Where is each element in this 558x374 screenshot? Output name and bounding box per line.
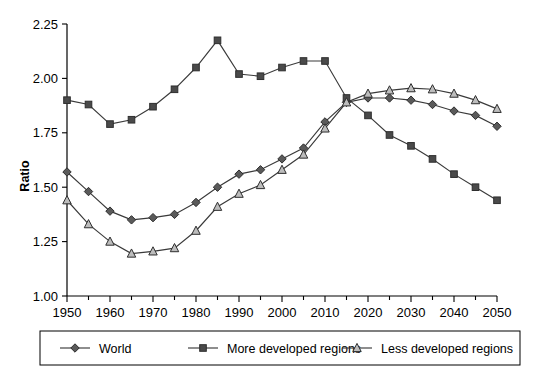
series-more-developed-regions bbox=[64, 37, 501, 204]
y-axis-tick-label: 1.50 bbox=[33, 180, 58, 195]
legend-label: Less developed regions bbox=[381, 342, 513, 356]
data-point-square bbox=[257, 73, 264, 80]
x-axis-tick-label: 2050 bbox=[483, 305, 512, 320]
data-point-square bbox=[472, 184, 479, 191]
data-point-diamond bbox=[407, 96, 415, 104]
data-point-diamond bbox=[385, 94, 393, 102]
data-point-square bbox=[300, 58, 307, 65]
data-point-diamond bbox=[170, 210, 178, 218]
data-point-square bbox=[128, 116, 135, 123]
data-point-square bbox=[279, 64, 286, 71]
series-less-developed-regions bbox=[63, 84, 501, 258]
data-point-triangle bbox=[63, 196, 71, 204]
x-axis-tick-label: 1990 bbox=[225, 305, 254, 320]
data-point-diamond bbox=[278, 155, 286, 163]
data-point-square bbox=[214, 37, 221, 44]
data-point-square bbox=[64, 97, 71, 104]
data-point-triangle bbox=[213, 202, 221, 210]
data-point-triangle bbox=[407, 84, 415, 92]
data-point-square bbox=[322, 58, 329, 65]
chart-legend: WorldMore developed regionsLess develope… bbox=[40, 331, 520, 365]
data-point-triangle bbox=[278, 165, 286, 173]
data-point-diamond bbox=[235, 170, 243, 178]
x-axis-tick-label: 2040 bbox=[440, 305, 469, 320]
data-point-square bbox=[193, 64, 200, 71]
data-point-triangle bbox=[170, 244, 178, 252]
data-point-square bbox=[451, 171, 458, 178]
x-axis-tick-label: 1970 bbox=[139, 305, 168, 320]
data-point-diamond bbox=[127, 216, 135, 224]
y-axis-tick-label: 1.25 bbox=[33, 234, 58, 249]
y-axis-tick-label: 1.75 bbox=[33, 125, 58, 140]
series-layer bbox=[63, 37, 501, 257]
x-axis-tick-label: 1960 bbox=[96, 305, 125, 320]
data-point-square bbox=[85, 101, 92, 108]
data-point-square bbox=[200, 345, 207, 352]
x-axis-tick-label: 2030 bbox=[397, 305, 426, 320]
chart-container: 1.001.251.501.752.002.251950196019701980… bbox=[0, 0, 558, 374]
y-axis-title: Ratio bbox=[18, 160, 32, 192]
data-point-square bbox=[408, 143, 415, 150]
x-axis-tick-label: 2000 bbox=[268, 305, 297, 320]
data-point-square bbox=[494, 197, 501, 204]
data-point-triangle bbox=[106, 237, 114, 245]
legend-label: World bbox=[99, 342, 131, 356]
data-point-diamond bbox=[450, 107, 458, 115]
data-point-square bbox=[386, 132, 393, 139]
x-axis-tick-label: 1980 bbox=[182, 305, 211, 320]
y-axis-tick-label: 2.25 bbox=[33, 17, 58, 32]
x-axis-tick-label: 2010 bbox=[311, 305, 340, 320]
data-point-square bbox=[365, 112, 372, 119]
data-point-square bbox=[171, 86, 178, 93]
data-point-diamond bbox=[149, 213, 157, 221]
data-point-square bbox=[429, 156, 436, 163]
line-chart: 1.001.251.501.752.002.251950196019701980… bbox=[0, 0, 558, 374]
data-point-square bbox=[150, 103, 157, 110]
data-point-diamond bbox=[256, 166, 264, 174]
data-point-diamond bbox=[428, 100, 436, 108]
data-point-square bbox=[236, 71, 243, 78]
x-axis-tick-label: 1950 bbox=[53, 305, 82, 320]
data-point-triangle bbox=[235, 189, 243, 197]
legend-label: More developed regions bbox=[227, 342, 361, 356]
data-point-triangle bbox=[493, 104, 501, 112]
y-axis-tick-label: 1.00 bbox=[33, 289, 58, 304]
data-point-triangle bbox=[256, 180, 264, 188]
data-point-diamond bbox=[471, 111, 479, 119]
x-axis-tick-label: 2020 bbox=[354, 305, 383, 320]
data-point-diamond bbox=[493, 122, 501, 130]
y-axis-tick-label: 2.00 bbox=[33, 71, 58, 86]
data-point-square bbox=[107, 121, 114, 128]
data-point-diamond bbox=[192, 198, 200, 206]
data-point-diamond bbox=[213, 183, 221, 191]
